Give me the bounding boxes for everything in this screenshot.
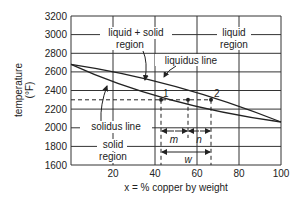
solid-region-label-2: region [99, 151, 127, 162]
solid-region-label: solid [103, 139, 124, 150]
x-axis-title: x = % copper by weight [124, 182, 228, 193]
solidus-line [71, 64, 281, 122]
svg-text:3000: 3000 [45, 29, 68, 40]
svg-text:2200: 2200 [45, 104, 68, 115]
svg-text:3200: 3200 [45, 11, 68, 22]
svg-text:80: 80 [233, 168, 245, 179]
point-1-label: 1 [163, 88, 169, 99]
y-axis-ticks: 3200 3000 2800 2600 2400 2200 2000 1800 … [45, 11, 68, 171]
liquid-region-label-2: region [220, 39, 248, 50]
solidus-line-label: solidus line [91, 121, 141, 132]
liquidus-line [71, 64, 281, 122]
svg-text:2400: 2400 [45, 85, 68, 96]
w-label: w [184, 154, 192, 165]
svg-text:100: 100 [273, 168, 290, 179]
svg-text:temperature: temperature [13, 63, 24, 117]
point-2 [209, 98, 213, 102]
liquidus-line-label: liquidus line [165, 55, 218, 66]
liquid-solid-region-label-2: region [116, 39, 144, 50]
x-axis-ticks: 20 40 60 80 100 [107, 168, 289, 179]
svg-text:2800: 2800 [45, 48, 68, 59]
svg-text:2000: 2000 [45, 122, 68, 133]
phase-diagram: 3200 3000 2800 2600 2400 2200 2000 1800 … [0, 0, 303, 204]
y-axis-title: temperature (°F) [13, 63, 35, 117]
svg-text:60: 60 [191, 168, 203, 179]
svg-text:40: 40 [149, 168, 161, 179]
svg-text:20: 20 [107, 168, 119, 179]
liquid-solid-region-label: liquid + solid [108, 27, 163, 38]
liquid-region-label: liquid [222, 27, 245, 38]
m-label: m [170, 134, 178, 145]
n-label: n [196, 134, 202, 145]
point-mid [186, 98, 190, 102]
svg-text:1600: 1600 [45, 160, 68, 171]
svg-text:2600: 2600 [45, 66, 68, 77]
svg-text:(°F): (°F) [24, 82, 35, 99]
svg-text:1800: 1800 [45, 141, 68, 152]
point-2-label: 2 [214, 88, 220, 99]
